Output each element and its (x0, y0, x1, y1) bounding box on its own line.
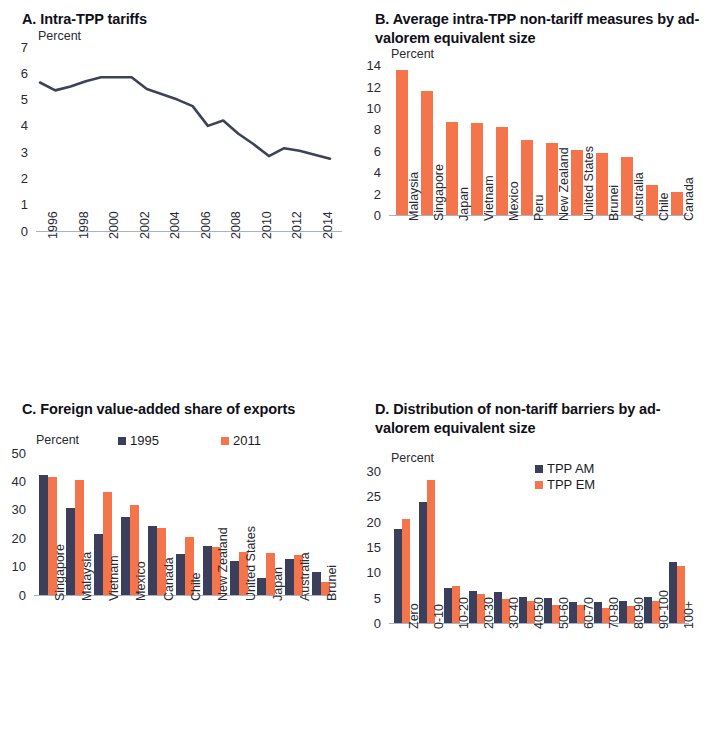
x-axis-label: 2010 (260, 211, 274, 239)
x-axis-label: Brunei (607, 185, 621, 221)
panel-d-axis-unit: Percent (391, 451, 434, 465)
legend-item: 1995 (118, 433, 159, 449)
panel-c-plot-area: Percent 19952011 01020304050SingaporeMal… (0, 419, 355, 679)
panel-d-distribution-nontariff: D. Distribution of non-tariff barriers b… (355, 390, 709, 739)
x-axis-label: 80-90 (632, 597, 646, 629)
y-axis-tick: 4 (0, 118, 28, 133)
y-axis-tick: 14 (355, 58, 381, 73)
legend-label: TPP AM (547, 461, 594, 477)
y-axis-tick: 0 (0, 223, 28, 238)
bar (471, 123, 483, 215)
x-axis-label: Vietnam (482, 175, 496, 221)
x-axis-label: Peru (532, 195, 546, 221)
x-axis-label: 50-60 (557, 597, 571, 629)
panel-b-nontariff-measures: B. Average intra-TPP non-tariff measures… (355, 0, 709, 380)
x-axis-label: Chile (657, 193, 671, 222)
legend-swatch-icon (221, 437, 229, 445)
panel-d-title: D. Distribution of non-tariff barriers b… (355, 390, 709, 437)
y-axis-tick: 5 (0, 92, 28, 107)
bar (394, 529, 402, 623)
bar (496, 127, 508, 215)
x-axis-label: 2014 (321, 211, 335, 239)
y-axis-tick: 20 (0, 530, 26, 545)
legend-item: TPP EM (535, 477, 595, 493)
x-axis-label: Mexico (507, 182, 521, 222)
bar (596, 153, 608, 215)
x-axis-label: Mexico (134, 561, 148, 601)
bar (621, 157, 633, 215)
panel-d-legend: TPP AMTPP EM (535, 461, 595, 494)
y-axis-tick: 50 (0, 445, 26, 460)
y-axis-tick: 3 (0, 144, 28, 159)
x-axis-baseline (34, 595, 334, 596)
legend-swatch-icon (118, 437, 126, 445)
x-axis-label: Vietnam (107, 555, 121, 601)
bar (203, 546, 212, 595)
y-axis-tick: 5 (355, 590, 381, 605)
y-axis-tick: 1 (0, 197, 28, 212)
bar (257, 578, 266, 594)
series-line-intra-tpp-tariffs (40, 77, 330, 158)
x-axis-label: 10-20 (457, 597, 471, 629)
x-axis-label: 70-80 (607, 597, 621, 629)
bar (421, 91, 433, 215)
x-axis-label: 90-100 (657, 590, 671, 629)
y-axis-tick: 10 (355, 565, 381, 580)
legend-label: TPP EM (547, 477, 595, 493)
x-axis-label: Australia (632, 172, 646, 221)
panel-b-plot-area: Percent 02468101214MalaysiaSingaporeJapa… (355, 47, 709, 357)
y-axis-tick: 2 (355, 186, 381, 201)
y-axis-tick: 40 (0, 473, 26, 488)
y-axis-tick: 12 (355, 79, 381, 94)
x-axis-label: Australia (298, 552, 312, 601)
x-axis-label: Canada (162, 557, 176, 601)
y-axis-tick: 8 (355, 122, 381, 137)
x-axis-label: Canada (682, 177, 696, 221)
bar (148, 526, 157, 594)
bar (66, 508, 75, 595)
figure-sheet: A. Intra-TPP tariffs Percent 01234567199… (0, 0, 709, 739)
x-axis-label: 2002 (138, 211, 152, 239)
y-axis-tick: 0 (355, 616, 381, 631)
panel-c-legend: 19952011 (118, 433, 261, 449)
bar (427, 480, 435, 623)
panel-a-axis-unit: Percent (38, 29, 81, 43)
y-axis-tick: 30 (355, 464, 381, 479)
x-axis-label: Malaysia (407, 172, 421, 221)
x-axis-label: 1998 (77, 211, 91, 239)
x-axis-label: Japan (457, 187, 471, 221)
y-axis-tick: 7 (0, 39, 28, 54)
x-axis-label: 40-50 (532, 597, 546, 629)
x-axis-label: 1996 (46, 211, 60, 239)
x-axis-label: Zero (407, 603, 421, 629)
bar (446, 122, 458, 215)
x-axis-label: 30-40 (507, 597, 521, 629)
bar (571, 150, 583, 215)
x-axis-label: Singapore (53, 544, 67, 601)
x-axis-label: Japan (271, 566, 285, 600)
x-axis-label: New Zealand (557, 147, 571, 221)
y-axis-tick: 15 (355, 540, 381, 555)
y-axis-tick: 30 (0, 502, 26, 517)
panel-c-axis-unit: Percent (36, 433, 79, 447)
bar (39, 475, 48, 594)
bar (646, 185, 658, 215)
x-axis-label: New Zealand (216, 527, 230, 601)
y-axis-tick: 10 (0, 559, 26, 574)
x-axis-label: 100+ (682, 601, 696, 629)
bar (285, 559, 294, 595)
legend-item: 2011 (221, 433, 261, 449)
legend-swatch-icon (535, 465, 543, 473)
bar (546, 143, 558, 215)
panel-b-title: B. Average intra-TPP non-tariff measures… (355, 0, 709, 47)
panel-a-title: A. Intra-TPP tariffs (0, 0, 355, 29)
bar (312, 572, 321, 594)
bar (396, 70, 408, 215)
y-axis-tick: 0 (355, 208, 381, 223)
bar (121, 517, 130, 595)
y-axis-tick: 20 (355, 514, 381, 529)
legend-item: TPP AM (535, 461, 595, 477)
legend-swatch-icon (535, 481, 543, 489)
x-axis-label: Chile (189, 572, 203, 601)
x-axis-label: 2008 (229, 211, 243, 239)
